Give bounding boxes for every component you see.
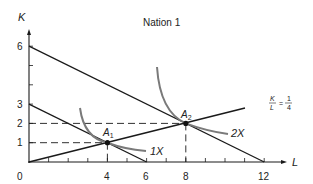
diagram-title: Nation 1 [143,17,181,28]
y-tick-label-2: 2 [17,118,23,129]
y-tick-label-1: 1 [17,137,23,148]
diagram-canvas: Nation 1 K L 0 4 6 8 12 1 [0,0,313,184]
svg-text:4: 4 [287,104,291,111]
label-a1: A1 [102,127,114,139]
svg-text:1: 1 [287,95,291,102]
isoquant-1x [80,108,146,151]
y-axis-arrow-icon [27,29,31,35]
x-axis-arrow-icon [281,160,287,164]
label-isoquant-2x: 2X [230,127,245,139]
label-a2: A2 [180,109,192,121]
y-tick-label-3: 3 [17,99,23,110]
isocost-line-2 [29,46,264,162]
svg-text:K: K [270,95,275,102]
x-tick-label-0: 0 [17,171,23,182]
x-tick-label-8: 8 [183,171,189,182]
x-axis-ticks [49,158,265,162]
x-axis-label: L [292,156,298,168]
point-a2 [183,121,188,126]
isocost-line-1 [29,104,147,162]
svg-text:L: L [270,104,274,111]
label-ray-ratio: K L = 1 4 [269,95,292,111]
svg-text:=: = [279,100,283,107]
x-tick-label-4: 4 [104,171,110,182]
y-axis-ticks [29,46,33,143]
y-tick-label-6: 6 [17,41,23,52]
isoquant-2x [157,67,228,134]
y-axis-label: K [18,11,26,23]
point-a1 [105,140,110,145]
x-axis [28,160,287,164]
ray-k-over-l [29,108,245,162]
label-isoquant-1x: 1X [150,145,164,157]
x-tick-label-6: 6 [143,171,149,182]
x-tick-label-12: 12 [258,171,270,182]
